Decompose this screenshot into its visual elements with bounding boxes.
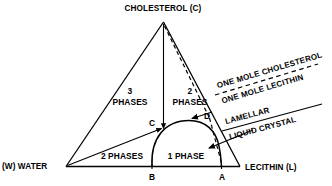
triangle-outline (66, 22, 240, 167)
region-label-three-phases-number: 3 (128, 86, 133, 96)
one-mole-ratio-dashed-line (165, 26, 223, 165)
ternary-phase-diagram-figure: CHOLESTEROL (C) (W) WATER LECITHIN (L) 3… (0, 0, 332, 186)
point-label-a: A (219, 172, 225, 182)
region-label-two-phases-lower: 2 PHASES (101, 151, 144, 161)
diagram-canvas: CHOLESTEROL (C) (W) WATER LECITHIN (L) 3… (0, 0, 332, 186)
vertex-label-water: (W) WATER (2, 162, 47, 171)
region-label-two-phases-upper-number: 2 (188, 86, 193, 96)
point-label-c: C (149, 118, 155, 128)
point-label-d: D (204, 111, 210, 121)
region-label-one-phase: 1 PHASE (168, 151, 205, 161)
region-label-three-phases-word: PHASES (112, 97, 147, 107)
vertex-label-cholesterol: CHOLESTEROL (C) (125, 4, 202, 13)
vertex-label-lecithin: LECITHIN (L) (245, 163, 297, 172)
triangle-left-side (66, 22, 164, 167)
region-label-two-phases-upper-word: PHASES (172, 97, 207, 107)
point-label-b: B (149, 172, 155, 182)
